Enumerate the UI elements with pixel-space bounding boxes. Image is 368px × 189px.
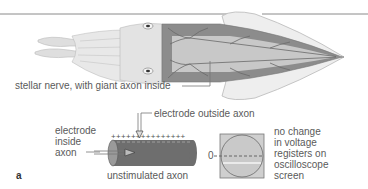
- unstimulated-axon-caption: unstimulated axon: [107, 170, 188, 181]
- oscilloscope-description: no change in voltage registers on oscill…: [274, 126, 328, 181]
- electrode-inside-line-1: electrode: [55, 125, 96, 136]
- oscilloscope-screen: [214, 134, 264, 178]
- oscilloscope-zero-label: 0: [208, 150, 214, 161]
- osc-desc-line-1: no change: [274, 126, 328, 137]
- osc-desc-line-4: oscilloscope: [274, 159, 328, 170]
- electrode-outside-label: electrode outside axon: [154, 108, 255, 119]
- electrode-inside-line-2: inside: [55, 136, 96, 147]
- axon-cylinder: [108, 140, 197, 166]
- stellar-nerve-label: stellar nerve, with giant axon inside: [15, 80, 171, 91]
- osc-desc-line-2: in voltage: [274, 137, 328, 148]
- panel-label: a: [16, 170, 22, 181]
- osc-desc-line-3: registers on: [274, 148, 328, 159]
- electrode-inside-line-3: axon: [55, 147, 96, 158]
- electrode-inside-label: electrode inside axon: [55, 125, 96, 158]
- osc-desc-line-5: screen: [274, 170, 328, 181]
- positive-charges: +++++++++++++++: [111, 132, 186, 141]
